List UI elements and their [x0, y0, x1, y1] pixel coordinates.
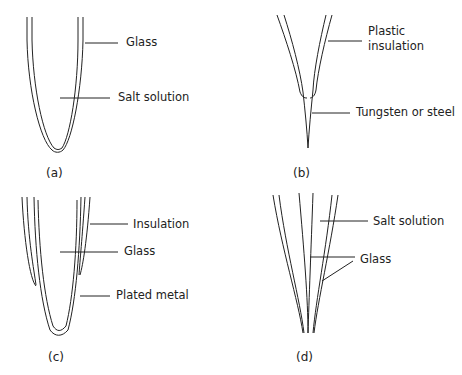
electrode-b-drawing [277, 15, 362, 148]
electrode-a-drawing [27, 17, 118, 152]
caption-d: (d) [296, 350, 313, 364]
label-glass-a: Glass [126, 36, 157, 49]
electrode-d-drawing [273, 193, 368, 333]
label-glass-d: Glass [360, 253, 391, 266]
caption-c: (c) [48, 350, 64, 364]
electrode-diagram: Glass Salt solution (a) Plastic insulati… [0, 0, 462, 375]
label-salt-solution-a: Salt solution [118, 91, 189, 104]
electrode-c-drawing [22, 197, 128, 335]
label-insulation-b: insulation [368, 40, 424, 53]
caption-b: (b) [293, 166, 310, 180]
label-insulation-c: Insulation [133, 218, 189, 231]
label-tungsten-b: Tungsten or steel [356, 106, 455, 119]
label-plated-metal-c: Plated metal [116, 289, 189, 302]
label-plastic-b: Plastic [368, 25, 405, 38]
caption-a: (a) [46, 166, 63, 180]
label-salt-solution-d: Salt solution [373, 215, 444, 228]
electrode-drawings [0, 0, 462, 375]
label-glass-c: Glass [124, 245, 155, 258]
